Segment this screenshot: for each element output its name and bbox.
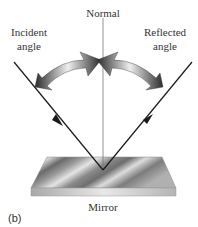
incident-label-line2: angle xyxy=(4,39,54,53)
mirror xyxy=(31,157,176,196)
incident-label-line1: Incident xyxy=(4,25,54,39)
subfigure-label: (b) xyxy=(8,212,21,224)
incident-ray xyxy=(14,62,103,170)
reflected-label-line1: Reflected xyxy=(136,25,194,39)
mirror-label: Mirror xyxy=(80,200,126,214)
incident-angle-label: Incident angle xyxy=(4,25,54,53)
normal-label: Normal xyxy=(80,6,126,20)
reflected-angle-label: Reflected angle xyxy=(136,25,194,53)
incident-angle-arrow-icon xyxy=(35,52,101,90)
reflected-label-line2: angle xyxy=(136,39,194,53)
reflected-angle-arrow-icon xyxy=(97,52,163,90)
